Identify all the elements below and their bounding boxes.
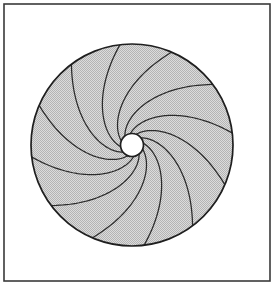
- spiral-disk-figure: [0, 0, 276, 290]
- center-hole: [121, 134, 144, 157]
- figure-root: [0, 0, 276, 290]
